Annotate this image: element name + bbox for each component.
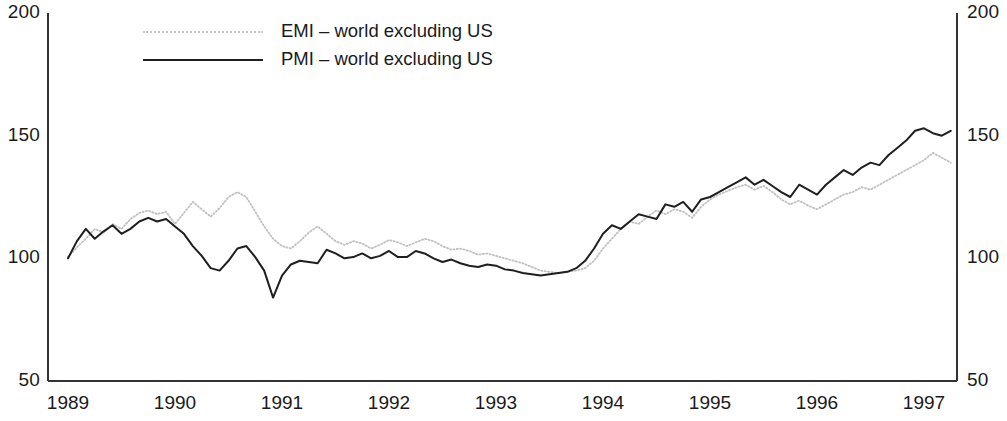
series-line-pmi	[68, 128, 951, 297]
legend-swatch-pmi-icon	[143, 52, 263, 66]
x-axis-tick-1989: 1989	[28, 392, 108, 414]
legend-swatch-emi-icon	[143, 24, 263, 38]
x-axis-tick-1994: 1994	[563, 392, 643, 414]
y-axis-left-tick-200: 200	[0, 1, 40, 23]
legend-item-pmi: PMI – world excluding US	[143, 45, 493, 73]
x-axis-tick-1996: 1996	[777, 392, 857, 414]
chart-container: 200 150 100 50 200 150 100 50 1989 1990 …	[0, 0, 1007, 421]
x-axis-tick-1991: 1991	[242, 392, 322, 414]
x-axis-tick-1993: 1993	[456, 392, 536, 414]
x-axis-tick-1995: 1995	[670, 392, 750, 414]
x-axis-tick-1997: 1997	[884, 392, 964, 414]
legend-item-emi: EMI – world excluding US	[143, 17, 493, 45]
y-axis-left-tick-100: 100	[0, 246, 40, 268]
legend-label-emi: EMI – world excluding US	[281, 20, 493, 42]
y-axis-right-tick-50: 50	[967, 369, 1007, 391]
y-axis-left-tick-150: 150	[0, 124, 40, 146]
legend-label-pmi: PMI – world excluding US	[281, 48, 493, 70]
y-axis-right-tick-100: 100	[967, 246, 1007, 268]
y-axis-left-tick-50: 50	[0, 369, 40, 391]
y-axis-right-tick-150: 150	[967, 124, 1007, 146]
x-axis-tick-1990: 1990	[135, 392, 215, 414]
chart-legend: EMI – world excluding US PMI – world exc…	[143, 17, 493, 73]
x-axis-tick-1992: 1992	[349, 392, 429, 414]
y-axis-right-tick-200: 200	[967, 1, 1007, 23]
